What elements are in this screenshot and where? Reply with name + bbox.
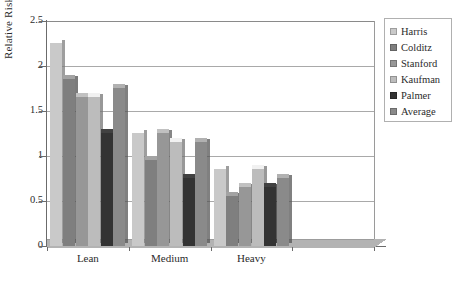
bar-face: [252, 168, 264, 246]
bar-top: [214, 165, 226, 169]
bar-face: [132, 132, 144, 246]
bar-face: [101, 132, 113, 246]
bar-harris-medium: [132, 129, 144, 246]
bar-top: [63, 75, 75, 79]
bar-top: [277, 174, 289, 178]
legend-swatch-icon: [390, 76, 397, 83]
bar-top: [157, 129, 169, 133]
legend-swatch-icon: [390, 92, 397, 99]
x-tick-mark: [47, 247, 48, 251]
bar-face: [170, 141, 182, 246]
bar-face: [145, 159, 157, 246]
x-category-label-heavy: Heavy: [211, 252, 291, 264]
plot-floor-edge: [374, 239, 387, 248]
bar-top: [264, 183, 276, 187]
bar-average-lean: [113, 84, 125, 246]
bar-side: [289, 175, 292, 243]
bar-kaufman-lean: [88, 93, 100, 246]
bar-face: [214, 168, 226, 246]
legend-item-average[interactable]: Average: [385, 103, 451, 119]
legend-swatch-icon: [390, 108, 397, 115]
y-tick-label: 1.5: [11, 105, 43, 115]
x-tick-mark: [211, 247, 212, 251]
legend-label: Average: [401, 106, 436, 117]
x-tick-mark: [129, 247, 130, 251]
bar-face: [50, 42, 62, 246]
y-tick-mark: [39, 246, 47, 247]
x-tick-mark: [292, 247, 293, 251]
bar-top: [145, 156, 157, 160]
bar-colditz-heavy: [226, 192, 238, 246]
bar-face: [183, 177, 195, 246]
bar-kaufman-medium: [170, 138, 182, 246]
bar-top: [226, 192, 238, 196]
bar-top: [101, 129, 113, 133]
bar-stanford-medium: [157, 129, 169, 246]
bar-kaufman-heavy: [252, 165, 264, 246]
y-tick-mark: [39, 111, 47, 112]
bar-colditz-medium: [145, 156, 157, 246]
legend-item-kaufman[interactable]: Kaufman: [385, 71, 451, 87]
bar-face: [113, 87, 125, 246]
bar-top: [50, 39, 62, 43]
x-tick-mark: [374, 247, 375, 251]
bar-average-medium: [195, 138, 207, 246]
bar-face: [226, 195, 238, 246]
bar-harris-lean: [50, 39, 62, 246]
legend-item-palmer[interactable]: Palmer: [385, 87, 451, 103]
bar-harris-heavy: [214, 165, 226, 246]
y-tick-mark: [39, 66, 47, 67]
bar-side: [207, 139, 210, 243]
legend-label: Harris: [401, 26, 427, 37]
relative-risk-bar-chart: Relative Risk 00.511.522.5 LeanMediumHea…: [0, 0, 460, 281]
bar-top: [113, 84, 125, 88]
bar-top: [183, 174, 195, 178]
bar-face: [195, 141, 207, 246]
bar-face: [88, 96, 100, 246]
legend-label: Colditz: [401, 42, 432, 53]
y-axis-title: Relative Risk: [2, 0, 16, 88]
bar-side: [125, 85, 128, 243]
bar-top: [132, 129, 144, 133]
bar-top: [76, 93, 88, 97]
bar-stanford-lean: [76, 93, 88, 246]
legend-item-colditz[interactable]: Colditz: [385, 39, 451, 55]
y-tick-label: 0.5: [11, 195, 43, 205]
bar-palmer-lean: [101, 129, 113, 246]
bar-top: [252, 165, 264, 169]
bar-top: [170, 138, 182, 142]
bar-palmer-heavy: [264, 183, 276, 246]
y-tick-label: 2: [11, 60, 43, 70]
bar-colditz-lean: [63, 75, 75, 246]
x-category-label-lean: Lean: [48, 252, 128, 264]
bar-face: [157, 132, 169, 246]
bar-face: [63, 78, 75, 246]
plot-right-wall: [374, 21, 375, 246]
bar-stanford-heavy: [239, 183, 251, 246]
y-tick-label: 2.5: [11, 15, 43, 25]
legend-swatch-icon: [390, 44, 397, 51]
bar-top: [239, 183, 251, 187]
bar-groups: [47, 21, 374, 246]
bar-top: [195, 138, 207, 142]
bar-face: [277, 177, 289, 246]
y-tick-mark: [39, 201, 47, 202]
y-tick-label: 1: [11, 150, 43, 160]
legend-swatch-icon: [390, 60, 397, 67]
y-tick-label: 0: [11, 240, 43, 250]
legend-swatch-icon: [390, 28, 397, 35]
legend-item-stanford[interactable]: Stanford: [385, 55, 451, 71]
y-tick-mark: [39, 21, 47, 22]
legend-label: Stanford: [401, 58, 437, 69]
legend-label: Palmer: [401, 90, 431, 101]
bar-palmer-medium: [183, 174, 195, 246]
legend-label: Kaufman: [401, 74, 440, 85]
y-tick-mark: [39, 156, 47, 157]
bar-average-heavy: [277, 174, 289, 246]
bar-face: [239, 186, 251, 246]
bar-face: [264, 186, 276, 246]
chart-legend: HarrisColditzStanfordKaufmanPalmerAverag…: [384, 18, 452, 122]
bar-face: [76, 96, 88, 246]
legend-item-harris[interactable]: Harris: [385, 23, 451, 39]
bar-top: [88, 93, 100, 97]
